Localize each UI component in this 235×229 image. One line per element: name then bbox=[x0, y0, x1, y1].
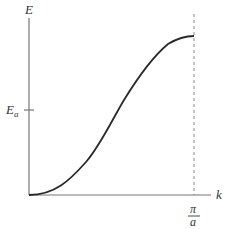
dispersion-diagram: E Ea k π a bbox=[0, 0, 235, 229]
pi-over-a-denominator: a bbox=[190, 215, 196, 229]
ea-tick-label: Ea bbox=[5, 102, 19, 119]
x-axis-label: k bbox=[216, 187, 222, 202]
pi-over-a-numerator: π bbox=[190, 202, 197, 216]
y-axis-label: E bbox=[24, 2, 33, 17]
dispersion-curve bbox=[29, 36, 194, 195]
